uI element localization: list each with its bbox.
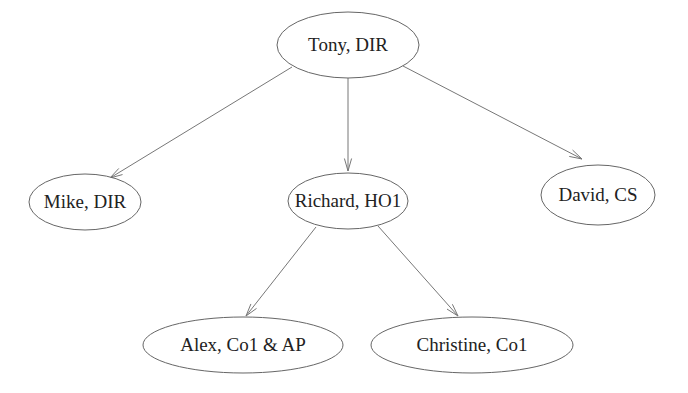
node-label: Richard, HO1 <box>295 190 402 211</box>
arrowhead-icon <box>110 168 123 178</box>
edge-line <box>403 66 582 159</box>
nodes-group: Tony, DIRMike, DIRRichard, HO1David, CSA… <box>29 12 655 373</box>
edge-tony-to-richard <box>344 78 351 171</box>
edge-tony-to-mike <box>110 67 292 178</box>
node-label: David, CS <box>558 184 637 205</box>
node-alex: Alex, Co1 & AP <box>143 317 343 373</box>
diagram-svg: Tony, DIRMike, DIRRichard, HO1David, CSA… <box>0 0 688 393</box>
node-label: Mike, DIR <box>44 191 127 212</box>
node-label: Alex, Co1 & AP <box>180 334 306 355</box>
node-christine: Christine, Co1 <box>371 317 573 373</box>
node-label: Christine, Co1 <box>417 334 528 355</box>
node-mike: Mike, DIR <box>29 174 141 230</box>
node-richard: Richard, HO1 <box>288 173 408 229</box>
edge-line <box>378 226 458 316</box>
edge-richard-to-christine <box>378 226 458 316</box>
arrowhead-icon <box>569 150 582 159</box>
org-chart-diagram: Tony, DIRMike, DIRRichard, HO1David, CSA… <box>0 0 688 393</box>
edge-line <box>246 227 316 316</box>
edge-richard-to-alex <box>246 227 316 316</box>
node-label: Tony, DIR <box>308 34 388 55</box>
node-david: David, CS <box>541 165 655 225</box>
edge-line <box>110 67 292 178</box>
node-tony: Tony, DIR <box>277 12 419 78</box>
edge-tony-to-david <box>403 66 582 159</box>
